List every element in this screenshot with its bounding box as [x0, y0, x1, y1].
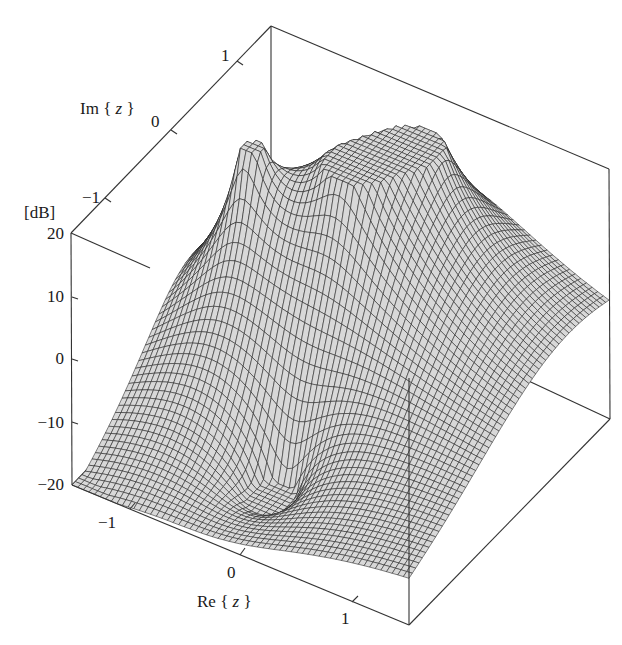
re-tick: [352, 596, 358, 602]
im-tick: [171, 130, 177, 134]
mesh-surface: [72, 125, 609, 578]
im-tick-label: 0: [151, 112, 160, 131]
z-tick: [72, 297, 78, 299]
z-ticks: −20 −10 0 10 20 [dB]: [24, 203, 78, 494]
top-left-inner-edge: [71, 233, 150, 268]
z-tick: [72, 359, 78, 361]
z-tick-label: −20: [37, 475, 64, 494]
z-tick-label: 0: [56, 349, 65, 368]
z-tick-label: −10: [37, 413, 64, 432]
re-axis-label: Re { z }: [197, 592, 252, 611]
z-axis-unit-label: [dB]: [24, 203, 55, 222]
z-tick-label: 20: [47, 224, 64, 243]
surface-plot: −20 −10 0 10 20 [dB] −1 0 1 Im { z } −1 …: [0, 0, 622, 645]
re-tick: [240, 548, 245, 555]
right-vertical-edge: [609, 169, 610, 419]
im-axis-label: Im { z }: [80, 99, 135, 118]
re-tick-label: −1: [98, 513, 116, 532]
im-tick-label: −1: [82, 188, 100, 207]
im-tick-label: 1: [221, 46, 230, 65]
z-axis-line: [71, 233, 72, 485]
z-tick: [72, 422, 78, 424]
im-tick: [237, 61, 243, 65]
z-tick-label: 10: [47, 287, 64, 306]
im-tick: [105, 198, 111, 202]
im-ticks: −1 0 1 Im { z }: [80, 46, 243, 207]
re-tick-label: 1: [341, 609, 350, 628]
re-tick-label: 0: [227, 563, 236, 582]
